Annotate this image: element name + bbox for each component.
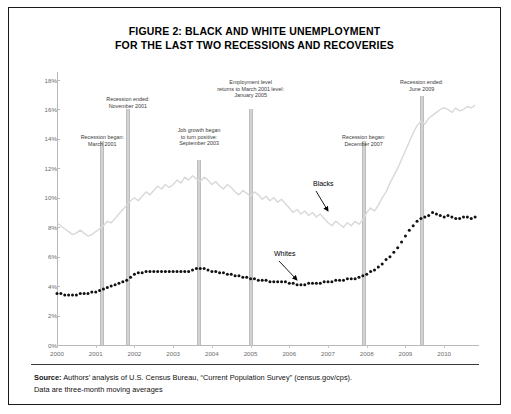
x-tick-label: 2003: [153, 350, 193, 357]
source-label: Source:: [34, 373, 62, 382]
x-tick-label: 2005: [231, 350, 271, 357]
chart-plot-area: 0%2%4%6%8%10%12%14%16%18% 20002001200220…: [9, 8, 502, 350]
source-note: Source: Authors’ analysis of U.S. Census…: [34, 372, 484, 395]
x-tick-label: 2006: [269, 350, 309, 357]
callout-arrow-blacks: [316, 191, 328, 211]
footer-divider: [31, 364, 479, 365]
x-tick-label: 2004: [192, 350, 232, 357]
x-tick-label: 2001: [76, 350, 116, 357]
callout-arrow-whites: [279, 261, 297, 280]
x-tick-label: 2009: [385, 350, 425, 357]
x-tick-label: 2002: [114, 350, 154, 357]
x-tick-label: 2007: [308, 350, 348, 357]
callout-arrows: [9, 8, 502, 350]
x-tick-label: 2000: [37, 350, 77, 357]
source-text-line2: Data are three-month moving averages: [34, 385, 163, 394]
figure-frame: FIGURE 2: BLACK AND WHITE UNEMPLOYMENT F…: [8, 7, 501, 405]
x-tick-label: 2008: [347, 350, 387, 357]
source-text: Authors’ analysis of U.S. Census Bureau,…: [62, 373, 353, 382]
x-tick-label: 2010: [424, 350, 464, 357]
